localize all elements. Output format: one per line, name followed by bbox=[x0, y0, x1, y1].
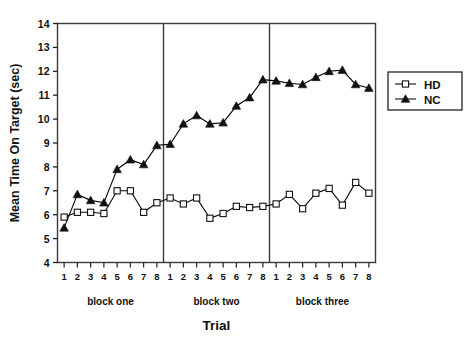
x-tick-label: 3 bbox=[300, 271, 305, 282]
x-tick-label: 5 bbox=[220, 271, 226, 282]
y-axis: 4567891011121314 bbox=[38, 18, 58, 269]
x-tick-label: 4 bbox=[207, 271, 213, 282]
y-tick-label: 7 bbox=[44, 185, 50, 197]
block-label-1: block one bbox=[87, 296, 134, 307]
data-point-hd bbox=[366, 190, 372, 196]
data-point-hd bbox=[154, 200, 160, 206]
data-point-hd bbox=[286, 191, 292, 197]
data-point-hd bbox=[233, 203, 239, 209]
x-tick-label: 2 bbox=[75, 271, 80, 282]
data-point-hd bbox=[88, 209, 94, 215]
x-tick-label: 8 bbox=[260, 271, 265, 282]
data-point-hd bbox=[220, 210, 226, 216]
data-point-hd bbox=[207, 215, 213, 221]
x-tick-label: 1 bbox=[61, 271, 67, 282]
data-point-hd bbox=[167, 195, 173, 201]
data-point-hd bbox=[74, 209, 80, 215]
y-tick-label: 12 bbox=[38, 65, 50, 77]
x-tick-label: 8 bbox=[366, 271, 371, 282]
y-tick-label: 14 bbox=[38, 18, 50, 30]
chart-svg: 4567891011121314123456781234567812345678… bbox=[0, 0, 476, 342]
x-tick-label: 7 bbox=[247, 271, 252, 282]
x-tick-label: 1 bbox=[273, 271, 279, 282]
legend-marker-open-square bbox=[402, 81, 408, 87]
x-tick-label: 5 bbox=[114, 271, 120, 282]
x-tick-label: 7 bbox=[353, 271, 358, 282]
y-tick-label: 6 bbox=[44, 209, 50, 221]
x-tick-label: 4 bbox=[313, 271, 319, 282]
data-point-hd bbox=[141, 209, 147, 215]
data-point-hd bbox=[300, 206, 306, 212]
block-label-2: block two bbox=[193, 296, 239, 307]
x-tick-label: 6 bbox=[340, 271, 345, 282]
data-point-hd bbox=[260, 203, 266, 209]
x-tick-label: 8 bbox=[154, 271, 159, 282]
data-point-hd bbox=[194, 195, 200, 201]
x-tick-label: 2 bbox=[181, 271, 186, 282]
data-point-hd bbox=[326, 185, 332, 191]
data-point-hd bbox=[247, 204, 253, 210]
data-point-hd bbox=[273, 201, 279, 207]
y-tick-label: 10 bbox=[38, 113, 50, 125]
legend[interactable]: HDNC bbox=[388, 72, 462, 110]
y-tick-label: 11 bbox=[38, 89, 49, 101]
data-point-hd bbox=[339, 202, 345, 208]
legend-label: NC bbox=[424, 94, 441, 106]
y-tick-label: 9 bbox=[44, 137, 50, 149]
x-tick-label: 2 bbox=[287, 271, 292, 282]
y-tick-label: 5 bbox=[44, 233, 50, 245]
block-label-3: block three bbox=[296, 296, 350, 307]
x-tick-label: 5 bbox=[326, 271, 332, 282]
x-tick-label: 3 bbox=[88, 271, 93, 282]
y-tick-label: 8 bbox=[44, 161, 50, 173]
data-point-hd bbox=[101, 210, 107, 216]
chart-figure: 4567891011121314123456781234567812345678… bbox=[0, 0, 476, 342]
plot-frame bbox=[58, 24, 376, 263]
data-point-hd bbox=[313, 190, 319, 196]
legend-label: HD bbox=[424, 79, 441, 91]
x-axis-title: Trial bbox=[203, 318, 231, 333]
x-tick-label: 7 bbox=[141, 271, 146, 282]
y-tick-label: 4 bbox=[44, 257, 50, 269]
data-point-hd bbox=[127, 188, 133, 194]
y-tick-label: 13 bbox=[38, 41, 50, 53]
x-axis: 123456781234567812345678 bbox=[61, 263, 371, 282]
data-point-hd bbox=[353, 179, 359, 185]
data-point-hd bbox=[180, 201, 186, 207]
x-tick-label: 1 bbox=[167, 271, 173, 282]
x-tick-label: 6 bbox=[234, 271, 239, 282]
data-point-hd bbox=[114, 188, 120, 194]
data-point-hd bbox=[61, 214, 67, 220]
y-axis-title: Mean Time On Target (sec) bbox=[8, 64, 22, 223]
x-tick-label: 4 bbox=[101, 271, 107, 282]
x-tick-label: 3 bbox=[194, 271, 199, 282]
x-tick-label: 6 bbox=[128, 271, 133, 282]
